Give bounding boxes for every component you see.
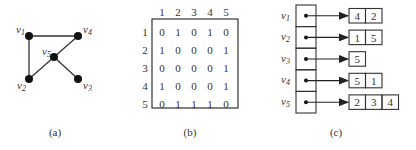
col-header: 3 [191, 6, 197, 18]
matrix-cell: 1 [191, 98, 197, 110]
matrix-cell: 0 [223, 26, 229, 38]
vertex-v2 [25, 75, 33, 83]
matrix-row: 0 1 0 1 0 [159, 26, 229, 38]
caption-a: (a) [49, 126, 62, 139]
caption-b: (b) [184, 126, 197, 139]
row-header: 1 [142, 26, 148, 38]
graph-representations-figure: v1 v4 v5 v2 v3 (a) 1 2 3 4 5 1 2 3 4 5 0… [0, 0, 416, 150]
list-label-v2: v2 [281, 30, 290, 44]
matrix-cell: 0 [191, 44, 197, 56]
neighbor-value: 5 [371, 32, 377, 44]
neighbor-value: 4 [355, 10, 361, 22]
matrix-row-headers: 1 2 3 4 5 [142, 26, 148, 110]
row-header: 5 [142, 98, 148, 110]
matrix-cell: 1 [207, 98, 213, 110]
list-label-v4: v4 [281, 73, 290, 87]
edge-v5-v4 [54, 36, 78, 57]
matrix-cell: 1 [159, 44, 165, 56]
row-header: 2 [142, 44, 148, 56]
label-v4: v4 [83, 23, 92, 37]
neighbor-value: 5 [355, 75, 361, 87]
matrix-cell: 0 [191, 80, 197, 92]
edge-v5-v3 [54, 57, 78, 79]
matrix-cell: 0 [207, 44, 213, 56]
matrix-cell: 1 [207, 26, 213, 38]
matrix-cell: 0 [207, 80, 213, 92]
matrix-cell: 0 [191, 62, 197, 74]
matrix-cell: 1 [223, 62, 229, 74]
matrix-cell: 0 [159, 98, 165, 110]
list-label-v1: v1 [281, 9, 290, 23]
col-header: 1 [159, 6, 165, 18]
row-header: 3 [142, 62, 148, 74]
row-header: 4 [142, 80, 148, 92]
matrix-cell: 0 [207, 62, 213, 74]
vertex-v3 [74, 75, 82, 83]
matrix-row: 0 0 0 0 1 [159, 62, 229, 74]
matrix-col-headers: 1 2 3 4 5 [159, 6, 229, 18]
list-label-v5: v5 [281, 95, 290, 109]
vertex-v1 [25, 32, 33, 40]
neighbor-values: 4 2 1 5 5 5 1 2 3 4 [355, 10, 394, 108]
matrix-cell: 1 [175, 26, 181, 38]
matrix-cell: 0 [175, 80, 181, 92]
matrix-cell: 0 [175, 62, 181, 74]
edge-v2-v5 [29, 57, 54, 79]
caption-c: (c) [330, 126, 343, 139]
panel-c-adjacency-lists: v1 v2 v3 v4 v5 [281, 5, 398, 139]
neighbor-value: 1 [371, 75, 377, 87]
vertex-v4 [74, 32, 82, 40]
matrix-cell: 1 [159, 80, 165, 92]
matrix-cell: 1 [175, 98, 181, 110]
matrix-cell: 1 [223, 80, 229, 92]
neighbor-value: 1 [355, 32, 361, 44]
col-header: 4 [207, 6, 213, 18]
list-pointers [304, 14, 348, 104]
list-label-v3: v3 [281, 52, 290, 66]
matrix-cells: 0 1 0 1 0 1 0 0 0 1 0 0 0 0 1 1 [159, 26, 229, 110]
matrix-cell: 0 [175, 44, 181, 56]
neighbor-value: 3 [371, 96, 377, 108]
vertex-v5 [50, 53, 58, 61]
neighbor-value: 2 [355, 96, 361, 108]
matrix-cell: 0 [223, 98, 229, 110]
matrix-cell: 1 [223, 44, 229, 56]
label-v1: v1 [16, 23, 25, 37]
label-v5: v5 [42, 45, 51, 59]
matrix-cell: 0 [159, 62, 165, 74]
label-v2: v2 [17, 79, 26, 93]
matrix-cell: 0 [159, 26, 165, 38]
panel-b-adjacency-matrix: 1 2 3 4 5 1 2 3 4 5 0 1 0 1 0 1 0 0 [142, 6, 238, 139]
panel-a-graph: v1 v4 v5 v2 v3 (a) [16, 23, 92, 139]
neighbor-value: 4 [388, 96, 394, 108]
matrix-row: 1 0 0 0 1 [159, 80, 229, 92]
neighbor-value: 5 [355, 53, 361, 65]
matrix-row: 1 0 0 0 1 [159, 44, 229, 56]
col-header: 5 [223, 6, 229, 18]
list-row-labels: v1 v2 v3 v4 v5 [281, 9, 290, 109]
matrix-cell: 0 [191, 26, 197, 38]
col-header: 2 [175, 6, 181, 18]
label-v3: v3 [83, 79, 92, 93]
neighbor-value: 2 [371, 10, 377, 22]
